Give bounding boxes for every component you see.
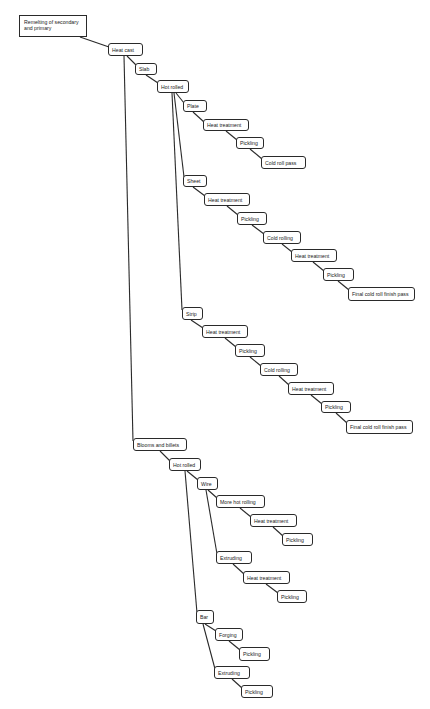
node-label: Heat cast [112, 47, 134, 53]
node-plate[interactable]: Plate [183, 100, 207, 112]
node-label: Extruding [220, 555, 242, 561]
node-remelting-of-secondary-and-primary[interactable]: Remelting of secondary and primary [19, 15, 87, 37]
connector-n31-n34 [203, 624, 215, 669]
node-pickling[interactable]: Pickling [277, 590, 307, 603]
node-label: Remelting of secondary and primary [24, 19, 82, 31]
node-heat-treatment[interactable]: Heat treatment [291, 249, 337, 262]
node-pickling[interactable]: Pickling [239, 647, 270, 661]
node-label: Cold rolling [267, 235, 293, 241]
node-label: Plate [187, 103, 199, 109]
node-extruding[interactable]: Extruding [214, 666, 250, 679]
node-blooms-and-billets[interactable]: Blooms and billets [133, 438, 187, 451]
node-label: Forging [219, 632, 237, 638]
node-label: More hot rolling [220, 499, 256, 505]
node-cold-rolling[interactable]: Cold rolling [263, 231, 301, 244]
node-more-hot-rolling[interactable]: More hot rolling [216, 495, 265, 508]
node-label: Wire [201, 481, 212, 487]
node-wire[interactable]: Wire [197, 477, 218, 490]
process-tree-diagram: Remelting of secondary and primaryHeat c… [0, 0, 430, 709]
node-label: Pickling [245, 689, 263, 695]
node-label: Pickling [327, 272, 345, 278]
node-label: Slab [139, 66, 149, 72]
node-label: Heat treatment [292, 386, 326, 392]
node-label: Heat treatment [208, 197, 242, 203]
connector-n23-n31 [185, 471, 197, 613]
node-pickling[interactable]: Pickling [282, 533, 313, 546]
node-pickling[interactable]: Pickling [323, 268, 354, 281]
node-forging[interactable]: Forging [215, 628, 243, 641]
node-label: Pickling [241, 216, 259, 222]
node-label: Heat treatment [254, 518, 288, 524]
node-label: Pickling [239, 348, 257, 354]
node-bar[interactable]: Bar [196, 610, 214, 624]
node-pickling[interactable]: Pickling [241, 685, 273, 698]
node-heat-treatment[interactable]: Heat treatment [203, 119, 249, 131]
node-heat-treatment[interactable]: Heat treatment [288, 382, 334, 395]
node-label: Cold roll pass [265, 160, 296, 166]
node-label: Heat treatment [247, 575, 281, 581]
node-label: Pickling [243, 651, 261, 657]
node-pickling[interactable]: Pickling [237, 212, 267, 225]
node-label: Sheet [187, 178, 201, 184]
node-label: Pickling [281, 594, 299, 600]
node-strip[interactable]: Strip [182, 307, 203, 320]
node-label: Hot rolled [173, 462, 195, 468]
connector-n3-n15 [172, 93, 182, 310]
node-hot-rolled[interactable]: Hot rolled [157, 80, 189, 93]
node-final-cold-roll-finish-pass[interactable]: Final cold roll finish pass [348, 287, 415, 301]
node-label: Cold rolling [264, 367, 290, 373]
node-heat-treatment[interactable]: Heat treatment [243, 571, 290, 584]
node-label: Heat treatment [206, 329, 240, 335]
node-label: Heat treatment [207, 122, 241, 128]
node-pickling[interactable]: Pickling [235, 344, 265, 357]
node-label: Pickling [286, 537, 304, 543]
connector-n0-n1 [80, 37, 109, 47]
connector-n1-n22 [124, 56, 133, 441]
node-label: Bar [200, 614, 208, 620]
node-pickling[interactable]: Pickling [321, 401, 351, 413]
node-cold-roll-pass[interactable]: Cold roll pass [261, 156, 306, 169]
node-hot-rolled[interactable]: Hot rolled [169, 458, 201, 471]
node-label: Pickling [325, 404, 343, 410]
node-label: Heat treatment [295, 253, 329, 259]
node-label: Extruding [218, 670, 240, 676]
node-heat-treatment[interactable]: Heat treatment [204, 193, 250, 206]
node-label: Pickling [240, 140, 258, 146]
node-heat-cast[interactable]: Heat cast [108, 43, 143, 56]
node-extruding[interactable]: Extruding [216, 551, 252, 564]
node-pickling[interactable]: Pickling [236, 137, 264, 149]
node-heat-treatment[interactable]: Heat treatment [202, 325, 248, 338]
node-label: Blooms and billets [137, 442, 179, 448]
node-label: Hot rolled [161, 84, 183, 90]
node-final-cold-roll-finish-pass[interactable]: Final cold roll finish pass [346, 420, 413, 434]
connector-layer [0, 0, 430, 709]
node-label: Final cold roll finish pass [350, 424, 407, 430]
node-cold-rolling[interactable]: Cold rolling [260, 363, 298, 376]
node-heat-treatment[interactable]: Heat treatment [250, 514, 297, 527]
node-slab[interactable]: Slab [135, 63, 157, 75]
node-label: Final cold roll finish pass [352, 291, 409, 297]
node-sheet[interactable]: Sheet [183, 175, 207, 187]
node-label: Strip [186, 311, 197, 317]
